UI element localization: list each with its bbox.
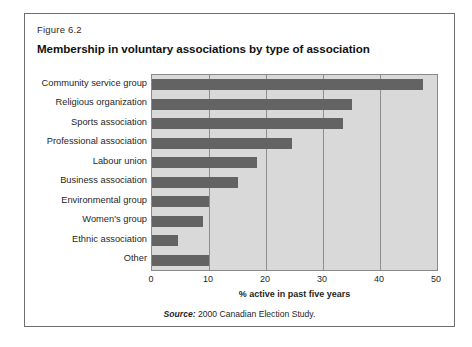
x-axis-tick-labels: 01020304050 (151, 274, 438, 288)
figure-frame: Figure 6.2 Membership in voluntary assoc… (24, 13, 455, 327)
bar-row (152, 177, 437, 188)
category-label: Environmental group (0, 195, 147, 206)
bar-row (152, 235, 437, 246)
category-label: Community service group (0, 78, 147, 89)
bar (152, 216, 203, 227)
bar (152, 99, 352, 110)
bar-row (152, 118, 437, 129)
bar-row (152, 79, 437, 90)
source-label: Source: (164, 309, 196, 319)
bar-row (152, 196, 437, 207)
category-label: Professional association (0, 136, 147, 147)
category-label: Sports association (0, 117, 147, 128)
bar (152, 235, 178, 246)
bar (152, 138, 292, 149)
category-label: Other (0, 253, 147, 264)
x-tick-label: 20 (260, 274, 270, 284)
figure-number: Figure 6.2 (37, 24, 82, 35)
bar-row (152, 157, 437, 168)
bar (152, 255, 209, 266)
bar-row (152, 216, 437, 227)
category-axis-labels: Community service groupReligious organiz… (0, 74, 147, 271)
bar-row (152, 99, 437, 110)
figure-title: Membership in voluntary associations by … (37, 42, 370, 55)
category-label: Ethnic association (0, 234, 147, 245)
bar (152, 118, 343, 129)
category-label: Labour union (0, 156, 147, 167)
bar (152, 79, 423, 90)
x-tick-label: 0 (148, 274, 153, 284)
x-tick-label: 10 (203, 274, 213, 284)
bar (152, 177, 238, 188)
x-axis-title: % active in past five years (151, 289, 438, 299)
bar (152, 157, 257, 168)
category-label: Women's group (0, 214, 147, 225)
x-tick-label: 30 (317, 274, 327, 284)
source-note: Source: 2000 Canadian Election Study. (25, 309, 454, 319)
source-text: 2000 Canadian Election Study. (198, 309, 315, 319)
bar-row (152, 255, 437, 266)
category-label: Business association (0, 175, 147, 186)
plot-area (151, 74, 438, 271)
bar (152, 196, 209, 207)
x-tick-label: 40 (374, 274, 384, 284)
x-tick-label: 50 (431, 274, 441, 284)
bar-row (152, 138, 437, 149)
category-label: Religious organization (0, 97, 147, 108)
